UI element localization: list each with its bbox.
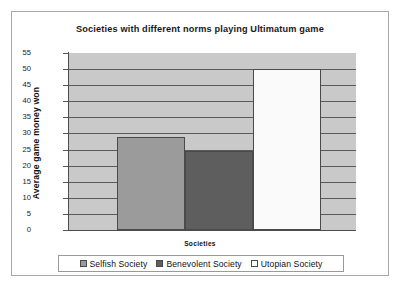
legend-label: Selfish Society xyxy=(90,259,148,269)
y-tick-label-15: 15 xyxy=(1,178,31,186)
y-tick-label-20: 20 xyxy=(1,162,31,170)
y-tick-mark-20 xyxy=(63,166,68,167)
legend-label: Utopian Society xyxy=(261,259,323,269)
y-tick-mark-25 xyxy=(63,150,68,151)
y-tick-label-45: 45 xyxy=(1,81,31,89)
plot-area xyxy=(69,53,356,230)
legend-entry-selfish-society[interactable]: Selfish Society xyxy=(80,259,148,269)
y-tick-label-5: 5 xyxy=(1,210,31,218)
y-tick-mark-35 xyxy=(63,117,68,118)
x-axis-title: Societies xyxy=(12,240,388,247)
y-tick-label-55: 55 xyxy=(1,49,31,57)
bar-benevolent-society xyxy=(185,151,253,230)
y-tick-mark-30 xyxy=(63,133,68,134)
y-tick-label-50: 50 xyxy=(1,65,31,73)
y-tick-mark-15 xyxy=(63,182,68,183)
y-tick-label-40: 40 xyxy=(1,97,31,105)
y-tick-label-30: 30 xyxy=(1,129,31,137)
legend-label: Benevolent Society xyxy=(166,259,241,269)
y-tick-mark-50 xyxy=(63,69,68,70)
legend-entry-benevolent-society[interactable]: Benevolent Society xyxy=(156,259,241,269)
chart-legend: Selfish SocietyBenevolent SocietyUtopian… xyxy=(58,255,344,272)
y-tick-label-25: 25 xyxy=(1,146,31,154)
y-tick-mark-0 xyxy=(63,230,68,231)
y-tick-label-35: 35 xyxy=(1,113,31,121)
legend-swatch-icon xyxy=(251,260,258,267)
y-tick-label-0: 0 xyxy=(1,226,31,234)
chart-title: Societies with different norms playing U… xyxy=(12,24,388,34)
y-tick-mark-40 xyxy=(63,101,68,102)
y-tick-mark-5 xyxy=(63,214,68,215)
legend-swatch-icon xyxy=(156,260,163,267)
y-tick-label-10: 10 xyxy=(1,194,31,202)
bar-series-group xyxy=(69,53,356,230)
bar-selfish-society xyxy=(117,137,185,230)
y-tick-mark-55 xyxy=(63,53,68,54)
y-tick-mark-45 xyxy=(63,85,68,86)
legend-entry-utopian-society[interactable]: Utopian Society xyxy=(251,259,323,269)
chart-frame: Societies with different norms playing U… xyxy=(11,11,389,276)
bar-utopian-society xyxy=(253,69,321,230)
gridline-0 xyxy=(69,230,356,231)
legend-swatch-icon xyxy=(80,260,87,267)
y-tick-mark-10 xyxy=(63,198,68,199)
y-axis-title: Average game money won xyxy=(31,63,41,223)
